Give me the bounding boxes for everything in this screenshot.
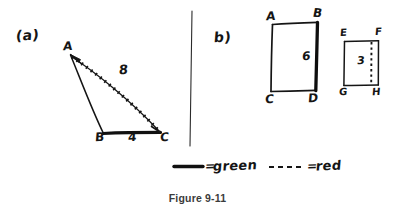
- rect-efgh-measure-label: 3: [357, 55, 366, 66]
- rect-abcd-label-c: C: [264, 93, 274, 105]
- triangle-vertex-label-c: C: [159, 131, 169, 143]
- figure-9-11: (a) A B C 8 4 b) A B C D 6 E F G H 3 = g…: [0, 0, 395, 214]
- triangle-side-ac-hatching: [72, 57, 159, 131]
- rect-abcd-label-d: D: [307, 92, 318, 104]
- rect-abcd-edge-bd-solid: [316, 22, 318, 90]
- rect-efgh-edge-eg: [344, 42, 345, 86]
- triangle-vertex-label-a: A: [62, 40, 73, 52]
- triangle-measure-label-8: 8: [118, 63, 129, 76]
- rect-abcd-edge-ab: [273, 22, 318, 24]
- rect-efgh-label-f: F: [375, 27, 383, 37]
- part-a-label: (a): [15, 28, 39, 43]
- rect-abcd-edge-ac: [271, 25, 273, 92]
- rect-efgh-label-h: H: [372, 87, 382, 97]
- triangle-measure-label-4: 4: [127, 131, 137, 143]
- vertical-divider: [190, 11, 192, 146]
- triangle-abc: [71, 55, 161, 134]
- legend-label-green: green: [212, 158, 257, 173]
- figure-caption: Figure 9-11: [0, 192, 395, 204]
- triangle-side-ac-dashed: [72, 57, 159, 131]
- rect-efgh-label-e: E: [340, 28, 348, 38]
- legend-label-red: red: [315, 159, 342, 173]
- rect-abcd-measure-label: 6: [301, 50, 311, 62]
- rect-efgh-edge-ef: [345, 41, 379, 42]
- rect-efgh-label-g: G: [339, 87, 348, 97]
- figure-drawing: [0, 0, 395, 214]
- rect-abcd-label-a: A: [265, 10, 276, 22]
- part-b-label: b): [213, 30, 231, 45]
- triangle-vertex-label-b: B: [94, 131, 105, 143]
